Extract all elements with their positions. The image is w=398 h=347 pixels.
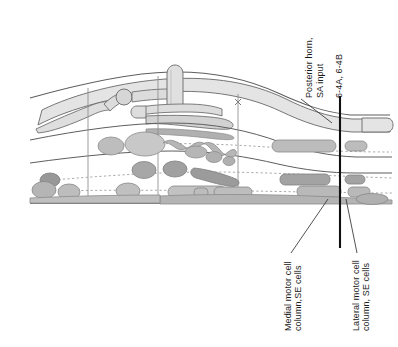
posterior-horn-cap [362,118,393,132]
cell-column-bar [345,141,367,151]
cell-bar-diagonal [191,168,239,186]
cell-cluster [98,137,124,155]
transverse-wing-stub [131,106,146,118]
cell-bead [185,146,207,158]
cell-column-bar [345,175,365,184]
posterior-horn-node-circle [116,89,132,105]
motor-cell-cluster [32,182,56,199]
leader-lateral-motor [346,199,357,253]
posterior-arm-lower [146,115,233,129]
cell-cluster [163,161,187,177]
leader-medial-motor [291,199,328,253]
label-lateral-motor-column: Lateral motor cell column, SE cells [351,260,371,331]
cell-column-bar [280,174,330,185]
cell-bead [223,157,235,166]
motor-cell-bar-medial [297,186,341,197]
cell-bead [206,152,222,163]
label-figure-ref: 6-4A, 6-4B [334,54,345,98]
label-posterior-horn: Posterior horn, SA input [304,37,325,98]
label-medial-motor-column: Medial motor cell column,SE cells [283,261,303,331]
posterior-horn-arm [132,89,168,102]
transverse-wing-bar [141,104,222,116]
middle-cell-row [40,161,365,187]
cell-cluster [125,132,165,156]
motor-column-row [30,182,392,205]
central-canal-finger [167,65,183,110]
spinal-cord-schematic-svg [0,0,398,347]
cell-cluster [132,162,156,179]
cell-column-bar [272,140,336,152]
motor-cell-cap-right [356,194,388,205]
figure-root: Posterior horn, SA input 6-4A, 6-4B Medi… [0,0,398,347]
